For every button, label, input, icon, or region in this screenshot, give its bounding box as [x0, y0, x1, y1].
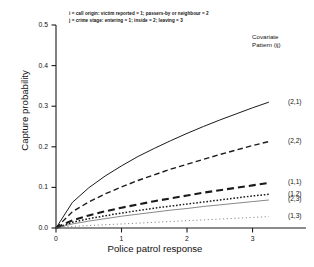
curve-21: [56, 102, 269, 228]
curve-23: [56, 200, 269, 228]
figure-container: i = call origin: victim reported = 1; pa…: [0, 0, 314, 267]
curve-13: [56, 217, 269, 228]
plot-canvas: [0, 0, 314, 267]
